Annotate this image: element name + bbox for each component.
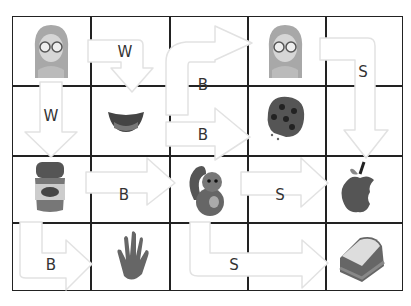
arrow-label: S [358, 63, 368, 81]
arrow-label: B [119, 186, 129, 204]
cookie-icon [262, 93, 310, 145]
arrow-label: S [229, 256, 239, 274]
peanut-butter-jar-icon [32, 160, 68, 216]
arrow-s-9 [190, 222, 328, 288]
hand-icon [112, 228, 152, 284]
girl-glasses-icon [264, 20, 306, 82]
arrow-label: B [198, 126, 208, 144]
arrow-b-6 [86, 158, 175, 205]
mouth-icon [106, 108, 146, 134]
arrow-b-3 [166, 26, 252, 115]
arrow-label: B [46, 256, 56, 274]
bitten-apple-icon [338, 160, 384, 218]
squirrel-icon [184, 160, 234, 218]
sandwich-icon [336, 232, 388, 286]
arrow-label: W [118, 43, 133, 61]
arrow-label: S [275, 186, 285, 204]
girl-glasses-icon [30, 20, 72, 82]
arrow-s-5 [320, 38, 388, 158]
arrow-label: B [198, 76, 208, 94]
arrow-label: W [44, 107, 59, 125]
